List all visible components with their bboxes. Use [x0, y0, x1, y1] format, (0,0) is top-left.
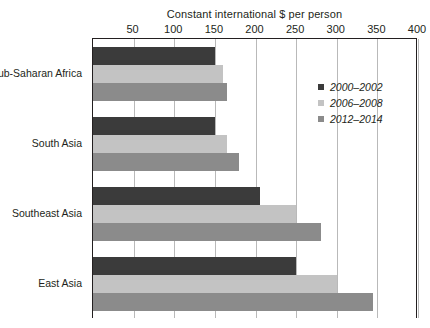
x-tick-label: 350	[367, 23, 385, 35]
legend-swatch-icon	[318, 100, 324, 106]
bar	[93, 293, 373, 311]
x-tick-label: 100	[164, 23, 182, 35]
x-tick-label: 250	[286, 23, 304, 35]
bar-chart: Constant international $ per person 5010…	[0, 0, 430, 328]
y-axis-category-labels: Sub-Saharan AfricaSouth AsiaSoutheast As…	[0, 38, 88, 318]
gridline	[418, 39, 419, 318]
bar	[93, 187, 260, 205]
legend-item: 2000–2002	[318, 80, 383, 94]
bar	[93, 205, 296, 223]
x-tick-label: 150	[205, 23, 223, 35]
legend-label: 2006–2008	[330, 97, 383, 109]
legend: 2000–20022006–20082012–2014	[318, 80, 383, 128]
bar	[93, 257, 296, 275]
y-category-label: Sub-Saharan Africa	[0, 67, 82, 79]
legend-item: 2012–2014	[318, 112, 383, 126]
bar	[93, 153, 239, 171]
x-tick-label: 300	[327, 23, 345, 35]
y-category-label: East Asia	[38, 277, 82, 289]
bar	[93, 117, 215, 135]
x-axis-title: Constant international $ per person	[92, 8, 417, 20]
y-category-label: South Asia	[32, 137, 82, 149]
bar	[93, 135, 227, 153]
legend-item: 2006–2008	[318, 96, 383, 110]
bar	[93, 275, 337, 293]
bar	[93, 65, 223, 83]
legend-label: 2000–2002	[330, 81, 383, 93]
x-tick-label: 400	[408, 23, 426, 35]
x-tick-label: 50	[127, 23, 139, 35]
bar	[93, 83, 227, 101]
legend-swatch-icon	[318, 116, 324, 122]
y-category-label: Southeast Asia	[12, 207, 82, 219]
bar	[93, 223, 321, 241]
bar	[93, 47, 215, 65]
legend-label: 2012–2014	[330, 113, 383, 125]
legend-swatch-icon	[318, 84, 324, 90]
x-tick-label: 200	[245, 23, 263, 35]
x-axis-tick-labels: 50100150200250300350400	[92, 23, 417, 37]
